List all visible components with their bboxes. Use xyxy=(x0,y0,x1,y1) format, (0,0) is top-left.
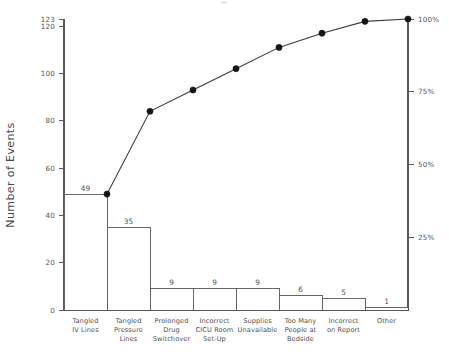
y-axis-title: Number of Events xyxy=(4,122,17,227)
y2-tick-label-100: 100% xyxy=(418,15,439,24)
bar-7 xyxy=(322,298,365,310)
bar-value-label-2: 35 xyxy=(124,217,134,226)
bar-6 xyxy=(279,296,322,310)
y-axis-left-ticks: 123120100806040200 xyxy=(41,15,64,315)
category-label-1: TangledIV Lines xyxy=(71,317,99,334)
category-label-6: Too ManyPeople atBedside xyxy=(284,317,317,343)
y-tick-label-100: 100 xyxy=(41,69,56,78)
cumulative-markers-group xyxy=(104,16,411,197)
y2-tick-label-25: 25% xyxy=(418,233,435,242)
cumulative-line xyxy=(107,19,408,194)
bar-2 xyxy=(107,227,150,310)
category-label-2: TangledPressureLines xyxy=(114,317,143,343)
y2-tick-label-50: 50% xyxy=(418,160,435,169)
bar-8 xyxy=(365,308,408,310)
bar-value-label-7: 5 xyxy=(341,288,346,297)
bar-3 xyxy=(150,289,193,310)
cumulative-marker-3 xyxy=(190,87,196,93)
y-tick-label-40: 40 xyxy=(45,211,55,220)
category-label-7: Incorrecton Report xyxy=(327,317,360,334)
category-label-5: SuppliesUnavailable xyxy=(238,317,278,334)
cumulative-marker-7 xyxy=(362,18,368,24)
cumulative-marker-8 xyxy=(405,16,411,22)
bars-group xyxy=(64,194,408,310)
bar-value-label-1: 49 xyxy=(81,184,91,193)
y-tick-label-60: 60 xyxy=(45,164,55,173)
y-tick-label-80: 80 xyxy=(45,116,55,125)
scan-artifact xyxy=(221,1,227,4)
cumulative-marker-4 xyxy=(233,66,239,72)
bar-1 xyxy=(64,194,107,310)
pareto-chart: Number of Events 123120100806040200 100%… xyxy=(0,0,449,356)
bar-value-label-6: 6 xyxy=(298,285,303,294)
cumulative-marker-5 xyxy=(276,44,282,50)
y-axis-right-ticks: 100%75%50%25% xyxy=(408,15,439,242)
category-label-4: IncorrectCICU RoomSet-Up xyxy=(196,317,234,343)
cumulative-marker-2 xyxy=(147,108,153,114)
y-tick-label-20: 20 xyxy=(45,258,55,267)
y-tick-label-0: 0 xyxy=(50,306,55,315)
y-tick-label-120: 120 xyxy=(41,22,56,31)
cumulative-marker-1 xyxy=(104,191,110,197)
bar-value-label-4: 9 xyxy=(212,278,217,287)
category-label-8: Other xyxy=(377,317,396,325)
cumulative-line-group xyxy=(107,19,408,194)
pareto-chart-canvas: Number of Events 123120100806040200 100%… xyxy=(0,0,449,356)
category-labels-group: TangledIV LinesTangledPressureLinesProlo… xyxy=(71,317,396,343)
y2-tick-label-75: 75% xyxy=(418,87,435,96)
bar-5 xyxy=(236,289,279,310)
bar-value-label-8: 1 xyxy=(384,297,389,306)
cumulative-marker-6 xyxy=(319,30,325,36)
bar-value-label-3: 9 xyxy=(169,278,174,287)
bar-4 xyxy=(193,289,236,310)
bar-value-label-5: 9 xyxy=(255,278,260,287)
category-label-3: ProlongedDrugSwitchover xyxy=(153,317,191,343)
